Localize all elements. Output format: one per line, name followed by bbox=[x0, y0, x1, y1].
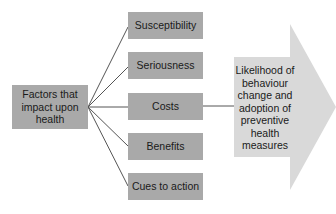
factor-cues-to-action: Cues to action bbox=[128, 173, 203, 200]
factor-benefits: Benefits bbox=[128, 133, 203, 160]
factor-susceptibility: Susceptibility bbox=[128, 12, 203, 39]
source-box: Factors that impact upon health bbox=[12, 85, 88, 129]
factor-seriousness: Seriousness bbox=[128, 52, 203, 79]
outcome-label: Likelihood of behaviour change and adopt… bbox=[234, 64, 296, 152]
factor-costs: Costs bbox=[128, 93, 203, 120]
source-label: Factors that impact upon health bbox=[12, 88, 88, 126]
factor-label: Susceptibility bbox=[135, 19, 196, 32]
factor-label: Cues to action bbox=[132, 180, 199, 193]
factor-label: Costs bbox=[152, 100, 179, 113]
factor-label: Seriousness bbox=[137, 59, 195, 72]
factor-label: Benefits bbox=[147, 140, 185, 153]
outcome-text: Likelihood of behaviour change and adopt… bbox=[234, 60, 296, 156]
